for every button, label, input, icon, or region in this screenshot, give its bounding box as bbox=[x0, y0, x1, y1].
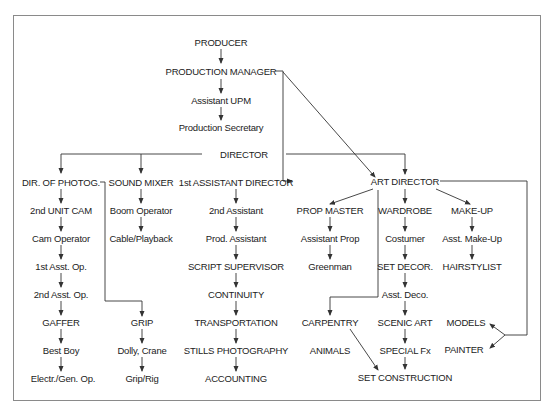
node-animals: ANIMALS bbox=[310, 345, 350, 356]
node-2nd-assistant: 2nd Assistant bbox=[209, 205, 263, 216]
node-dir-photog: DIR. OF PHOTOG. bbox=[22, 177, 100, 188]
node-make-up: MAKE-UP bbox=[451, 205, 493, 216]
node-assistant-upm: Assistant UPM bbox=[191, 95, 251, 106]
node-greenman: Greenman bbox=[308, 261, 351, 272]
node-costumer: Costumer bbox=[385, 233, 425, 244]
node-1st-asst-op: 1st Asst. Op. bbox=[35, 261, 86, 272]
node-asst-deco: Asst. Deco. bbox=[382, 289, 428, 300]
node-dolly-crane: Dolly, Crane bbox=[117, 345, 166, 356]
node-script-supervisor: SCRIPT SUPERVISOR bbox=[188, 261, 284, 272]
node-2nd-unit-cam: 2nd UNIT CAM bbox=[30, 205, 92, 216]
node-asst-make-up: Asst. Make-Up bbox=[442, 233, 502, 244]
node-boom-operator: Boom Operator bbox=[110, 205, 172, 216]
node-set-decor: SET DECOR. bbox=[377, 261, 433, 272]
node-grip-rig: Grip/Rig bbox=[125, 373, 158, 384]
node-prop-master: PROP MASTER bbox=[297, 205, 364, 216]
node-scenic-art: SCENIC ART bbox=[378, 317, 433, 328]
node-cable-playback: Cable/Playback bbox=[109, 233, 172, 244]
node-painter: PAINTER bbox=[444, 344, 483, 355]
node-set-construction: SET CONSTRUCTION bbox=[358, 372, 452, 383]
node-sound-mixer: SOUND MIXER bbox=[109, 177, 174, 188]
node-1st-assistant-director: 1st ASSISTANT DIRECTOR bbox=[179, 177, 293, 188]
node-continuity: CONTINUITY bbox=[208, 289, 264, 300]
node-cam-operator: Cam Operator bbox=[32, 233, 90, 244]
node-producer: PRODUCER bbox=[195, 37, 248, 48]
node-assistant-prop: Assistant Prop bbox=[301, 233, 359, 244]
node-production-secretary: Production Secretary bbox=[179, 122, 264, 133]
node-accounting: ACCOUNTING bbox=[205, 373, 267, 384]
node-art-director: ART DIRECTOR bbox=[371, 176, 439, 187]
node-carpentry: CARPENTRY bbox=[302, 317, 359, 328]
node-prod-assistant: Prod. Assistant bbox=[206, 233, 266, 244]
node-hairstylist: HAIRSTYLIST bbox=[442, 261, 501, 272]
node-special-fx: SPECIAL Fx bbox=[380, 345, 431, 356]
node-best-boy: Best Boy bbox=[43, 345, 79, 356]
node-electr-gen-op: Electr./Gen. Op. bbox=[31, 373, 95, 384]
node-production-manager: PRODUCTION MANAGER bbox=[166, 66, 277, 77]
node-transportation: TRANSPORTATION bbox=[194, 317, 277, 328]
node-2nd-asst-op: 2nd Asst. Op. bbox=[34, 289, 88, 300]
node-grip: GRIP bbox=[131, 317, 153, 328]
node-gaffer: GAFFER bbox=[42, 317, 79, 328]
node-wardrobe: WARDROBE bbox=[378, 205, 432, 216]
node-director: DIRECTOR bbox=[220, 149, 268, 160]
node-models: MODELS bbox=[447, 317, 486, 328]
node-stills-photography: STILLS PHOTOGRAPHY bbox=[184, 345, 288, 356]
